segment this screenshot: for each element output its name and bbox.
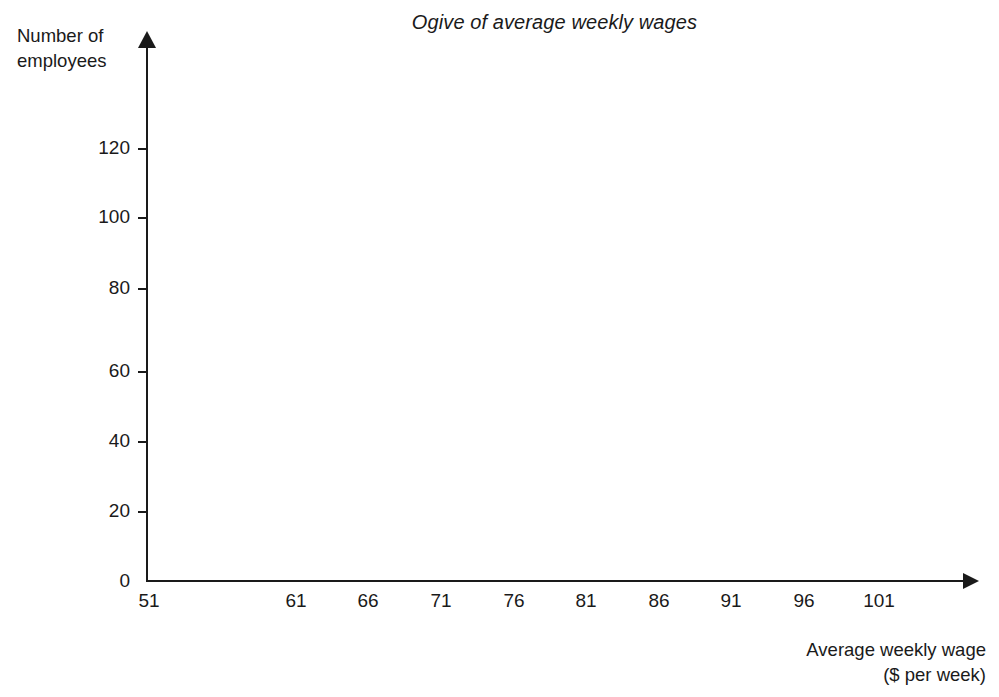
- x-axis-title: Average weekly wage ($ per week): [806, 637, 986, 687]
- x-axis-arrow-icon: [963, 573, 979, 589]
- x-axis-tick-label: 101: [863, 590, 895, 612]
- y-axis-tick-label: 100: [0, 207, 130, 226]
- y-axis-title: Number of employees: [17, 23, 106, 73]
- y-axis-tick-mark: [138, 217, 147, 219]
- x-axis-tick-label: 81: [575, 590, 596, 612]
- y-axis-tick-label: 80: [0, 278, 130, 297]
- y-axis-tick-mark: [138, 371, 147, 373]
- y-axis-tick-label: 20: [0, 501, 130, 520]
- x-axis-tick-label: 86: [648, 590, 669, 612]
- y-axis-title-line-2: employees: [17, 48, 106, 73]
- y-axis-tick-label: 0: [0, 571, 130, 590]
- x-axis-title-line-1: Average weekly wage: [806, 637, 986, 662]
- plot-area[interactable]: [148, 45, 963, 580]
- y-axis-tick-label: 60: [0, 361, 130, 380]
- x-axis-tick-label: 76: [503, 590, 524, 612]
- x-axis-line: [146, 580, 965, 582]
- y-axis-tick-mark: [138, 441, 147, 443]
- x-axis-tick-label: 51: [138, 590, 159, 612]
- y-axis-tick-mark: [138, 148, 147, 150]
- y-axis-tick-mark: [138, 511, 147, 513]
- x-axis-title-line-2: ($ per week): [806, 662, 986, 687]
- y-axis-title-line-1: Number of: [17, 23, 106, 48]
- y-axis-tick-label: 120: [0, 138, 130, 157]
- x-axis-tick-label: 96: [793, 590, 814, 612]
- chart-figure: Ogive of average weekly wages Number of …: [0, 0, 999, 697]
- x-axis-tick-label: 71: [430, 590, 451, 612]
- y-axis-tick-mark: [138, 288, 147, 290]
- y-axis-tick-label: 40: [0, 431, 130, 450]
- x-axis-tick-label: 91: [720, 590, 741, 612]
- x-axis-tick-label: 61: [285, 590, 306, 612]
- x-axis-tick-label: 66: [357, 590, 378, 612]
